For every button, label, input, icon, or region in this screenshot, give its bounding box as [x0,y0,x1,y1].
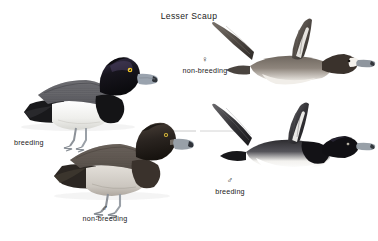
male-symbol-nonbreeding-swimming: ♂ [78,204,132,213]
figure-flying-breeding-male [212,102,375,172]
feet-breeding-male [64,128,86,152]
body-female [250,56,331,82]
caption-breeding-flying-male: breeding [203,187,257,196]
page-title: Lesser Scaup [0,11,378,21]
far-wing-male [212,104,252,146]
eye-female [348,60,351,63]
female-symbol-nonbreeding-flying: ♀ [180,55,230,64]
bird-illustration-artwork [0,0,378,241]
caption-breeding-swimming-male: breeding [14,138,44,147]
head-nonbreeding-male [136,123,176,161]
male-symbol-breeding-flying: ♂ [205,176,255,185]
illustration-plate: Lesser Scaup breeding ♂ non-breeding ♀ n… [0,0,378,241]
head-male [322,136,359,158]
tail-male [220,151,246,161]
caption-nonbreeding-flying-female: non-breeding [172,66,238,75]
caption-nonbreeding-swimming-male: non-breeding [68,214,142,223]
